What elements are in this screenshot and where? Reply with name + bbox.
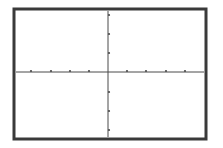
x-tick-mark bbox=[69, 70, 71, 72]
plot-frame bbox=[14, 9, 206, 139]
x-tick-mark bbox=[50, 70, 52, 72]
y-tick-mark bbox=[108, 14, 110, 16]
y-tick-mark bbox=[108, 110, 110, 112]
x-tick-mark bbox=[145, 70, 147, 72]
x-tick-mark bbox=[126, 70, 128, 72]
x-tick-mark bbox=[30, 70, 32, 72]
y-tick-mark bbox=[108, 91, 110, 93]
y-tick-mark bbox=[108, 129, 110, 131]
x-tick-mark bbox=[88, 70, 90, 72]
x-tick-mark bbox=[184, 70, 186, 72]
y-tick-mark bbox=[108, 33, 110, 35]
coordinate-plane bbox=[0, 0, 223, 148]
x-tick-mark bbox=[165, 70, 167, 72]
y-tick-mark bbox=[108, 52, 110, 54]
